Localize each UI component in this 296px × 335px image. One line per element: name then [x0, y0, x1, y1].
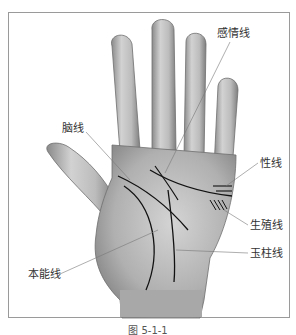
label-reproduction-line: 生殖线 — [250, 220, 283, 231]
hand-illustration — [0, 0, 296, 335]
label-life-line: 本能线 — [28, 269, 61, 280]
label-head-line: 脑线 — [62, 123, 84, 134]
index-finger — [111, 35, 140, 152]
leader-reproduction-line — [224, 210, 248, 225]
middle-finger — [152, 20, 176, 151]
figure-caption: 图 5-1-1 — [0, 322, 296, 335]
label-heart-line: 感情线 — [217, 28, 250, 39]
wrist — [120, 290, 202, 317]
label-fate-line: 玉柱线 — [250, 248, 283, 259]
label-sex-line: 性线 — [260, 158, 282, 169]
ring-finger — [184, 33, 206, 158]
